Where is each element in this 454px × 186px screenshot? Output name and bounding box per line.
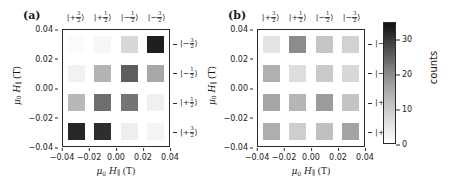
panel-a-cell-slot [143,117,170,146]
panel-a-heatmap-cell-r2-c2 [121,94,138,111]
panel-a-column-label-0: |+32⟩ [62,8,89,26]
panel-b-heatmap-cell-r1-c3 [342,65,359,82]
panel-b-column-label-1: |+12⟩ [284,8,311,26]
panel-a-cell-slot [63,30,90,59]
panel-a-cell-slot [63,59,90,88]
panel-a-cell-slot [116,117,143,146]
panel-a-heatmap-cell-r1-c1 [94,65,111,82]
panel-a-row-label-0: |−32⟩ [173,29,217,59]
panel-b-cell-slot [338,59,365,88]
panel-b-cell-slot [338,88,365,117]
panel-b-cell-slot [311,30,338,59]
panel-b-column-label-2: |−12⟩ [311,8,338,26]
panel-b-column-label-3: |−32⟩ [338,8,365,26]
panel-a-column-label-1: |+12⟩ [89,8,116,26]
panel-b-cell-slot [338,30,365,59]
panel-a-cell-slot [90,59,117,88]
panel-b-cell-slot [285,88,312,117]
panel-a-plot-area [62,29,170,147]
panel-a-x-tick-4: 0.04 [161,153,179,162]
panel-b: (b) |+32⟩|+12⟩|−12⟩|−32⟩ |−32⟩|−12⟩|+12⟩… [215,0,375,186]
panel-b-y-tick-3: −0.02 [223,113,248,122]
panel-a-heatmap-cell-r0-c2 [121,36,138,53]
panel-a-cell-slot [116,88,143,117]
panel-a-cell-slot [143,59,170,88]
panel-b-cell-slot [311,117,338,146]
panel-b-column-state-labels: |+32⟩|+12⟩|−12⟩|−32⟩ [257,8,365,26]
panel-b-heatmap-cell-r2-c1 [289,94,306,111]
panel-b-heatmap-cell-r1-c2 [316,65,333,82]
panel-a-cell-slot [116,30,143,59]
panel-a-y-tick-2: 0.00 [35,84,53,93]
panel-b-heatmap-cell-r0-c1 [289,36,306,53]
panel-a-heatmap-cell-r1-c3 [147,65,164,82]
panel-a-heatmap-cell-r0-c3 [147,36,164,53]
panel-b-cell-slot [311,88,338,117]
panel-a-heatmap-cell-r0-c1 [94,36,111,53]
panel-a-heatmap-cell-r3-c0 [68,123,85,140]
panel-a-column-label-2: |−12⟩ [116,8,143,26]
panel-b-y-tick-1: 0.02 [230,54,248,63]
panel-a-heatmap-grid [63,30,169,146]
panel-a-x-tick-2: 0.00 [107,153,125,162]
panel-b-heatmap-cell-r0-c3 [342,36,359,53]
panel-b-cell-slot [285,30,312,59]
panel-a-cell-slot [143,88,170,117]
colorbar-tick-1: 20 [402,70,412,79]
panel-a-heatmap-cell-r3-c2 [121,123,138,140]
panel-b-y-tick-2: 0.00 [230,84,248,93]
panel-b-cell-slot [258,117,285,146]
panel-b-heatmap-cell-r1-c1 [289,65,306,82]
panel-a-column-label-3: |−32⟩ [143,8,170,26]
figure-container: (a) |+32⟩|+12⟩|−12⟩|−32⟩ |−32⟩|−12⟩|+12⟩… [0,0,454,186]
panel-a-x-tick-3: 0.02 [134,153,152,162]
colorbar-ticks: 3020100 [396,22,422,144]
panel-b-y-axis-title: μ0 H∥ (T) [207,56,218,116]
panel-a-y-tick-4: −0.04 [28,143,53,152]
panel-b-heatmap-cell-r0-c0 [263,36,280,53]
panel-b-heatmap-cell-r3-c1 [289,123,306,140]
panel-b-column-label-0: |+32⟩ [257,8,284,26]
panel-b-heatmap-cell-r3-c2 [316,123,333,140]
panel-b-y-axis-ticks: 0.040.020.00−0.02−0.04 [219,29,253,147]
panel-b-label: (b) [228,9,246,22]
panel-a-y-tick-1: 0.02 [35,54,53,63]
panel-a-heatmap-cell-r3-c1 [94,123,111,140]
panel-a-x-tick-1: −0.02 [77,153,102,162]
panel-b-heatmap-cell-r1-c0 [263,65,280,82]
colorbar-tick-3: 0 [402,140,407,149]
panel-b-x-axis-ticks: −0.04−0.020.000.020.04 [257,148,365,162]
panel-a-cell-slot [143,30,170,59]
panel-b-heatmap-cell-r2-c2 [316,94,333,111]
panel-b-cell-slot [285,117,312,146]
panel-b-x-tick-4: 0.04 [356,153,374,162]
panel-b-cell-slot [311,59,338,88]
panel-a-y-tick-3: −0.02 [28,113,53,122]
panel-b-plot-area [257,29,365,147]
panel-b-heatmap-cell-r3-c3 [342,123,359,140]
panel-a-label: (a) [23,9,41,22]
panel-b-cell-slot [258,30,285,59]
panel-a-heatmap-cell-r1-c0 [68,65,85,82]
panel-b-cell-slot [258,59,285,88]
panel-a-y-tick-0: 0.04 [35,25,53,34]
panel-a-x-tick-0: −0.04 [50,153,75,162]
panel-b-heatmap-cell-r2-c3 [342,94,359,111]
panel-a-cell-slot [116,59,143,88]
panel-a-heatmap-cell-r3-c3 [147,123,164,140]
panel-a-x-axis-title: μ0 H∥ (T) [62,166,170,177]
panel-a-column-state-labels: |+32⟩|+12⟩|−12⟩|−32⟩ [62,8,170,26]
colorbar-gradient [383,22,396,144]
panel-b-y-tick-0: 0.04 [230,25,248,34]
panel-b-x-tick-0: −0.04 [245,153,270,162]
panel-b-heatmap-cell-r2-c0 [263,94,280,111]
panel-b-heatmap-grid [258,30,364,146]
panel-a-x-axis-ticks: −0.04−0.020.000.020.04 [62,148,170,162]
panel-a-y-axis-title: μ0 H∥ (T) [12,56,23,116]
panel-a-cell-slot [90,88,117,117]
panel-b-cell-slot [285,59,312,88]
panel-a-heatmap-cell-r2-c0 [68,94,85,111]
panel-a-heatmap-cell-r0-c0 [68,36,85,53]
panel-b-x-axis-title: μ0 H∥ (T) [257,166,365,177]
panel-b-x-tick-2: 0.00 [302,153,320,162]
